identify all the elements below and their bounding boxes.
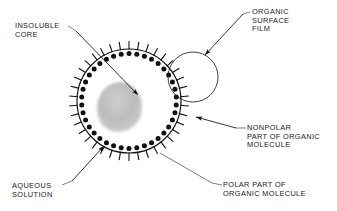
molecule-polar-head [127, 146, 132, 151]
molecule-polar-head [127, 51, 132, 56]
molecule-nonpolar-tail [110, 150, 113, 158]
molecule-polar-head [111, 54, 116, 59]
molecule-polar-head [87, 124, 92, 129]
molecule-polar-head [81, 87, 86, 92]
molecule-nonpolar-tail [154, 48, 158, 55]
leader-insoluble-core-arrow [76, 31, 138, 95]
molecule-polar-head [172, 87, 177, 92]
molecule-nonpolar-tail [119, 152, 120, 160]
label-nonpolar-part: NONPOLAR PART OF ORGANIC MOLECULE [247, 124, 320, 150]
molecule-polar-head [156, 61, 161, 66]
molecule-polar-head [166, 124, 171, 129]
leader-aqueous-solution-arrow [72, 146, 104, 181]
molecule-nonpolar-tail [79, 68, 86, 73]
molecule-nonpolar-tail [180, 96, 188, 97]
molecule-nonpolar-tail [154, 146, 158, 153]
molecule-polar-head [134, 52, 139, 57]
molecule-nonpolar-tail [74, 122, 82, 125]
leader-polar-part-line [160, 153, 212, 183]
molecule-polar-head [166, 73, 171, 78]
molecule-nonpolar-tail [119, 42, 120, 50]
molecule-nonpolar-tail [176, 77, 184, 80]
molecule-nonpolar-tail [180, 105, 188, 106]
molecule-nonpolar-tail [146, 150, 149, 158]
molecule-polar-head [142, 143, 147, 148]
leader-organic-surface-film-arrow [205, 14, 243, 55]
molecule-polar-head [81, 110, 86, 115]
molecule-polar-head [172, 110, 177, 115]
molecule-polar-head [119, 145, 124, 150]
molecule-nonpolar-tail [100, 48, 104, 55]
leader-nonpolar-arrow [196, 117, 236, 128]
molecule-nonpolar-tail [69, 105, 77, 106]
molecule-nonpolar-tail [74, 77, 82, 80]
molecule-polar-head [92, 66, 97, 71]
molecule-nonpolar-tail [71, 86, 79, 88]
leader-lines [62, 12, 250, 185]
molecule-nonpolar-tail [176, 122, 184, 125]
molecule-polar-head [97, 136, 102, 141]
molecule-nonpolar-tail [172, 129, 179, 134]
molecule-nonpolar-tail [161, 54, 166, 61]
molecule-polar-head [156, 136, 161, 141]
label-aqueous-solution: AQUEOUS SOLUTION [12, 182, 53, 199]
molecule-nonpolar-tail [179, 86, 187, 88]
molecule-polar-head [119, 52, 124, 57]
molecule-nonpolar-tail [161, 142, 166, 149]
molecule-nonpolar-tail [69, 96, 77, 97]
leader-polar-part [212, 183, 222, 185]
molecule-nonpolar-tail [85, 136, 91, 142]
leader-aqueous-solution [62, 181, 72, 185]
molecule-nonpolar-tail [172, 68, 179, 73]
molecule-nonpolar-tail [110, 44, 113, 52]
label-insoluble-core: INSOLUBLE CORE [15, 22, 60, 39]
molecule-polar-head [111, 143, 116, 148]
label-polar-part: POLAR PART OF ORGANIC MOLECULE [223, 181, 306, 198]
molecule-polar-head [170, 118, 175, 123]
molecule-polar-head [149, 140, 154, 145]
molecule-polar-head [174, 102, 179, 107]
molecule-polar-head [92, 131, 97, 136]
molecule-nonpolar-tail [85, 60, 91, 66]
molecule-polar-head [79, 102, 84, 107]
molecule-nonpolar-tail [179, 114, 187, 116]
molecule-polar-head [170, 79, 175, 84]
molecule-polar-head [83, 118, 88, 123]
molecule-nonpolar-tail [79, 129, 86, 134]
molecule-polar-head [161, 66, 166, 71]
molecule-nonpolar-tail [92, 142, 97, 149]
leader-organic-surface-film [243, 12, 250, 14]
molecule-polar-head [83, 79, 88, 84]
molecule-polar-head [134, 145, 139, 150]
molecule-nonpolar-tail [137, 42, 138, 50]
molecule-polar-head [104, 140, 109, 145]
molecule-polar-head [161, 131, 166, 136]
molecule-polar-head [87, 73, 92, 78]
molecule-polar-head [79, 95, 84, 100]
molecule-nonpolar-tail [137, 152, 138, 160]
insoluble-core-blob [97, 82, 142, 132]
molecule-nonpolar-tail [146, 44, 149, 52]
molecule-nonpolar-tail [92, 54, 97, 61]
molecule-nonpolar-tail [71, 114, 79, 116]
molecule-polar-head [149, 57, 154, 62]
leader-insoluble-core [68, 26, 76, 31]
molecule-nonpolar-tail [167, 136, 173, 142]
molecule-polar-head [97, 61, 102, 66]
diagram-canvas: INSOLUBLE CORE ORGANIC SURFACE FILM NONP… [0, 0, 337, 211]
molecule-polar-head [142, 54, 147, 59]
label-organic-surface-film: ORGANIC SURFACE FILM [252, 8, 289, 34]
